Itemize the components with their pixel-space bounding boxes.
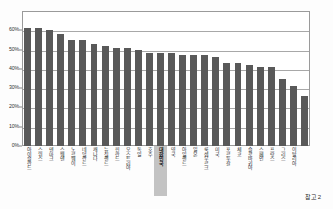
figure-caption: 참고 2 [305, 192, 321, 201]
x-axis-tick-label: 노르웨이 [69, 147, 74, 165]
x-axis-tick-label: 대한민국 [158, 147, 163, 165]
y-axis-tick-label: 30% [9, 86, 19, 91]
x-axis-tick-label: 스웨덴 [58, 147, 63, 161]
y-axis-tick-label: 0% [12, 143, 19, 148]
bar [212, 57, 219, 146]
y-axis-tick-label: 40% [9, 66, 19, 71]
bar [268, 67, 275, 146]
bar [279, 79, 286, 147]
x-axis-labels: 아이슬란드스위스덴마크스웨덴노르웨이네덜란드캐나다뉴질랜드핀란드오스트리아독일호… [22, 147, 310, 195]
bar [246, 65, 253, 146]
bar [179, 55, 186, 146]
x-axis-tick-label: 스페인 [258, 147, 263, 161]
x-axis-tick-label: 프랑스 [269, 147, 274, 161]
x-axis-tick-label: 뉴질랜드 [103, 147, 108, 165]
y-axis-tick-label: 60% [9, 28, 19, 33]
bar [102, 46, 109, 146]
bar [201, 55, 208, 146]
bar [79, 40, 86, 146]
x-axis-tick-label: 덴마크 [47, 147, 52, 161]
bar [35, 28, 42, 146]
bar [223, 63, 230, 146]
bar [68, 40, 75, 146]
y-axis-tick-label: 50% [9, 47, 19, 52]
x-axis-tick-label: 핀란드 [114, 147, 119, 161]
bar [146, 53, 153, 146]
bar [124, 48, 131, 146]
bars-layer [22, 11, 310, 146]
x-axis-tick-label: 미국 [213, 147, 218, 156]
bar [301, 96, 308, 146]
x-axis-tick-label: 독일 [136, 147, 141, 156]
chart-figure: 0%10%20%30%40%50%60% 아이슬란드스위스덴마크스웨덴노르웨이네… [0, 0, 333, 209]
y-axis: 0%10%20%30%40%50%60% [0, 11, 21, 146]
bar [168, 53, 175, 146]
y-axis-tick-label: 10% [9, 124, 19, 129]
bar [157, 53, 164, 146]
x-axis-tick-label: 아이슬란드 [25, 147, 30, 170]
x-axis-tick-label: 이탈리아 [291, 147, 296, 165]
bar [113, 48, 120, 146]
x-axis-tick-label: 일본 [191, 147, 196, 156]
bar [257, 67, 264, 146]
x-axis-tick-label: 슬로바키아 [247, 147, 252, 170]
bar [57, 34, 64, 146]
x-axis-tick-label: 호주 [147, 147, 152, 156]
bar [46, 30, 53, 146]
bar [91, 44, 98, 146]
x-axis-tick-label: 영국 [169, 147, 174, 156]
y-axis-tick-label: 20% [9, 105, 19, 110]
x-axis-tick-label: 룩셈부르크 [202, 147, 207, 170]
x-axis-tick-label: 포르투갈 [224, 147, 229, 165]
bar [24, 28, 31, 146]
bar [235, 63, 242, 146]
x-axis-tick-label: 네덜란드 [80, 147, 85, 165]
bar [190, 55, 197, 146]
bar [135, 50, 142, 146]
x-axis-tick-label: 그리스 [280, 147, 285, 161]
bar [290, 86, 297, 146]
x-axis-tick-label: 오스트리아 [125, 147, 130, 170]
x-axis-tick-label: 스위스 [36, 147, 41, 161]
x-axis-tick-label: 체코 [236, 147, 241, 156]
x-axis-tick-label: 캐나다 [92, 147, 97, 161]
x-axis-tick-label: 아일랜드 [180, 147, 185, 165]
